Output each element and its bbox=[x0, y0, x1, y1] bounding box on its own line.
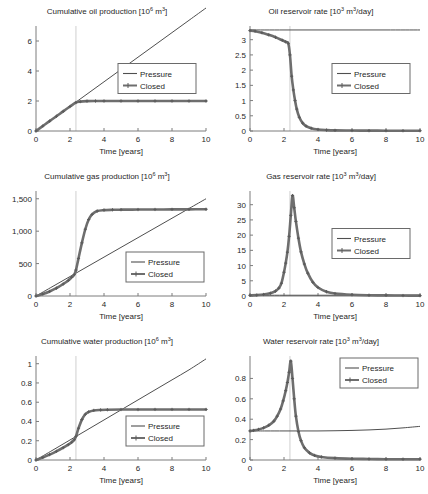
y-tick-label: 15 bbox=[237, 246, 246, 255]
chart-title: Gas reservoir rate [103 m3/day] bbox=[266, 171, 376, 181]
x-tick-label: 4 bbox=[102, 464, 107, 473]
x-tick-label: 4 bbox=[102, 300, 107, 309]
legend-label-closed: Closed bbox=[140, 82, 165, 91]
x-tick-label: 8 bbox=[170, 135, 175, 144]
x-tick-label: 6 bbox=[136, 135, 141, 144]
legend[interactable]: PressureClosed bbox=[340, 358, 418, 388]
x-axis-label: Time [years] bbox=[99, 312, 143, 321]
x-axis-label: Time [years] bbox=[99, 147, 143, 156]
x-tick-label: 2 bbox=[68, 135, 73, 144]
x-tick-label: 0 bbox=[248, 464, 253, 473]
legend-label-pressure: Pressure bbox=[354, 70, 387, 79]
legend[interactable]: PressureClosed bbox=[118, 64, 196, 94]
legend-label-pressure: Pressure bbox=[148, 422, 181, 431]
x-tick-label: 10 bbox=[416, 135, 425, 144]
y-tick-label: 0.4 bbox=[21, 417, 33, 426]
chart-cumulative-water-production: Cumulative water production [106 m3]0246… bbox=[0, 330, 214, 494]
y-tick-label: 0.8 bbox=[21, 379, 33, 388]
x-tick-label: 0 bbox=[248, 135, 253, 144]
y-tick-label: 0 bbox=[242, 127, 247, 136]
x-tick-label: 8 bbox=[170, 464, 175, 473]
x-tick-label: 10 bbox=[202, 300, 211, 309]
y-tick-label: 0 bbox=[28, 456, 33, 465]
legend-label-closed: Closed bbox=[354, 82, 379, 91]
y-tick-label: 30 bbox=[237, 201, 246, 210]
panel-gas-reservoir-rate: Gas reservoir rate [103 m3/day]024681005… bbox=[214, 165, 428, 330]
x-axis-label: Time [years] bbox=[99, 476, 143, 485]
chart-title: Cumulative water production [106 m3] bbox=[41, 336, 173, 346]
legend-label-closed: Closed bbox=[354, 247, 379, 256]
x-tick-label: 8 bbox=[170, 300, 175, 309]
y-tick-label: 0.8 bbox=[235, 374, 247, 383]
x-tick-label: 10 bbox=[202, 464, 211, 473]
x-tick-label: 8 bbox=[384, 135, 389, 144]
panel-cumulative-water-production: Cumulative water production [106 m3]0246… bbox=[0, 330, 214, 494]
y-tick-label: 0 bbox=[242, 456, 247, 465]
x-axis-label: Time [years] bbox=[313, 476, 357, 485]
legend[interactable]: PressureClosed bbox=[332, 229, 410, 259]
series-closed bbox=[36, 101, 206, 131]
x-tick-label: 4 bbox=[316, 135, 321, 144]
y-tick-label: 6 bbox=[28, 37, 33, 46]
legend[interactable]: PressureClosed bbox=[126, 416, 204, 446]
y-tick-label: 2 bbox=[28, 97, 33, 106]
figure-grid: Cumulative oil production [106 m3]024681… bbox=[0, 0, 428, 494]
x-tick-label: 4 bbox=[316, 464, 321, 473]
x-tick-label: 2 bbox=[282, 464, 287, 473]
y-tick-label: 1,000 bbox=[12, 227, 33, 236]
legend[interactable]: PressureClosed bbox=[126, 252, 204, 282]
panel-cumulative-oil-production: Cumulative oil production [106 m3]024681… bbox=[0, 0, 214, 165]
y-tick-label: 1 bbox=[28, 360, 33, 369]
y-tick-label: 0 bbox=[242, 292, 247, 301]
chart-title: Oil reservoir rate [103 m3/day] bbox=[269, 6, 374, 16]
x-tick-label: 8 bbox=[384, 300, 389, 309]
y-tick-label: 0 bbox=[28, 292, 33, 301]
y-tick-label: 500 bbox=[19, 260, 33, 269]
chart-water-reservoir-rate: Water reservoir rate [103 m3/day]0246810… bbox=[214, 330, 428, 494]
y-tick-label: 0.2 bbox=[235, 436, 247, 445]
y-tick-label: 0.2 bbox=[21, 437, 33, 446]
x-tick-label: 0 bbox=[34, 135, 39, 144]
x-axis-label: Time [years] bbox=[313, 147, 357, 156]
y-tick-label: 2 bbox=[242, 66, 247, 75]
x-tick-label: 10 bbox=[202, 135, 211, 144]
x-tick-label: 2 bbox=[282, 135, 287, 144]
x-tick-label: 2 bbox=[68, 464, 73, 473]
legend-label-pressure: Pressure bbox=[354, 235, 387, 244]
legend-label-pressure: Pressure bbox=[362, 364, 395, 373]
legend-label-pressure: Pressure bbox=[148, 258, 181, 267]
x-tick-label: 6 bbox=[350, 135, 355, 144]
x-tick-label: 6 bbox=[350, 464, 355, 473]
x-tick-label: 6 bbox=[136, 464, 141, 473]
chart-cumulative-oil-production: Cumulative oil production [106 m3]024681… bbox=[0, 0, 214, 165]
x-tick-label: 0 bbox=[248, 300, 253, 309]
x-tick-label: 4 bbox=[316, 300, 321, 309]
y-tick-label: 5 bbox=[242, 277, 247, 286]
y-tick-label: 4 bbox=[28, 67, 33, 76]
chart-gas-reservoir-rate: Gas reservoir rate [103 m3/day]024681005… bbox=[214, 165, 428, 330]
chart-oil-reservoir-rate: Oil reservoir rate [103 m3/day]024681000… bbox=[214, 0, 428, 165]
legend-label-closed: Closed bbox=[148, 434, 173, 443]
chart-title: Cumulative gas production [106 m3] bbox=[44, 171, 169, 181]
legend[interactable]: PressureClosed bbox=[332, 64, 410, 94]
y-tick-label: 0 bbox=[28, 127, 33, 136]
legend-label-pressure: Pressure bbox=[140, 70, 173, 79]
chart-title: Water reservoir rate [103 m3/day] bbox=[263, 336, 379, 346]
x-tick-label: 2 bbox=[282, 300, 287, 309]
y-tick-label: 20 bbox=[237, 231, 246, 240]
x-tick-label: 2 bbox=[68, 300, 73, 309]
y-tick-label: 25 bbox=[237, 216, 246, 225]
x-tick-label: 0 bbox=[34, 300, 39, 309]
panel-water-reservoir-rate: Water reservoir rate [103 m3/day]0246810… bbox=[214, 330, 428, 494]
x-tick-label: 10 bbox=[416, 300, 425, 309]
chart-cumulative-gas-production: Cumulative gas production [106 m3]024681… bbox=[0, 165, 214, 330]
x-tick-label: 0 bbox=[34, 464, 39, 473]
legend-label-closed: Closed bbox=[362, 376, 387, 385]
y-tick-label: 0.4 bbox=[235, 415, 247, 424]
x-tick-label: 4 bbox=[102, 135, 107, 144]
x-tick-label: 6 bbox=[350, 300, 355, 309]
y-tick-label: 1.5 bbox=[235, 81, 247, 90]
y-tick-label: 1,500 bbox=[12, 195, 33, 204]
y-tick-label: 3 bbox=[242, 36, 247, 45]
x-tick-label: 6 bbox=[136, 300, 141, 309]
